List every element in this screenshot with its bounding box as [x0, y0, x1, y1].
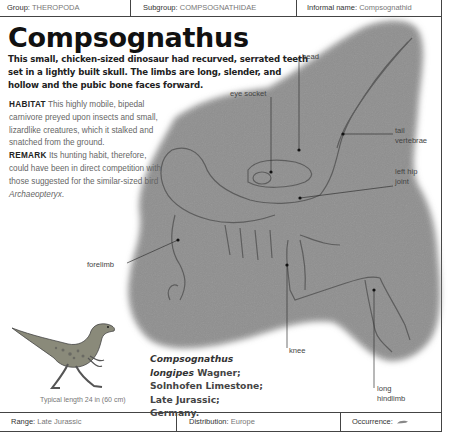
remark-italic-text: Archaeopteryx	[9, 190, 62, 199]
distribution-cell: Distribution: Europe	[177, 413, 341, 431]
group-value: THEROPODA	[32, 3, 80, 12]
range-value: Late Jurassic	[37, 417, 81, 426]
illustration-caption: Typical length 24 in (60 cm)	[40, 396, 126, 403]
label-eye-socket: eye socket	[230, 89, 266, 99]
informal-name-label: Informal name:	[307, 3, 357, 12]
range-label: Range:	[11, 417, 35, 426]
distribution-label: Distribution:	[189, 417, 229, 426]
subgroup-value: COMPSOGNATHIDAE	[180, 3, 257, 12]
group-label: Group:	[7, 3, 30, 12]
shell-fossil-icon	[397, 420, 408, 424]
label-forelimb: forelimb	[87, 260, 114, 270]
page-title: Compsognathus	[8, 22, 249, 53]
subgroup-label: Subgroup:	[143, 3, 178, 12]
label-long-hindlimb-1: long	[377, 384, 391, 394]
right-frame-rule	[441, 17, 442, 412]
specimen-formation: Solnhofen Limestone;	[150, 380, 263, 391]
range-cell: Range: Late Jurassic	[0, 413, 177, 431]
habitat-label: HABITAT	[9, 100, 46, 109]
dinosaur-illustration	[8, 318, 123, 390]
intro-paragraph: This small, chicken-sized dinosaur had r…	[8, 53, 313, 92]
informal-name-value: Compsognathid	[359, 3, 412, 12]
informal-name-cell: Informal name: Compsognathid	[297, 0, 441, 16]
label-tail-vertebrae-2: vertebrae	[395, 136, 427, 146]
label-tail-vertebrae-1: tail	[395, 126, 405, 136]
occurrence-label: Occurrence:	[352, 417, 393, 426]
remark-label: REMARK	[9, 151, 47, 160]
body-text: HABITAT This highly mobile, bipedal carn…	[9, 99, 164, 201]
footer-bar: Range: Late Jurassic Distribution: Europ…	[0, 412, 442, 432]
label-left-hip-2: joint	[395, 177, 409, 187]
subgroup-cell: Subgroup: COMPSOGNATHIDAE	[131, 0, 297, 16]
specimen-genus: Compsognathus	[150, 353, 233, 364]
fact-page: Group: THEROPODA Subgroup: COMPSOGNATHID…	[0, 0, 462, 433]
distribution-value: Europe	[231, 417, 255, 426]
specimen-caption: Compsognathus longipes Wagner; Solnhofen…	[150, 352, 270, 420]
specimen-author: Wagner;	[194, 367, 241, 378]
group-cell: Group: THEROPODA	[0, 0, 131, 16]
occurrence-cell: Occurrence:	[341, 413, 441, 431]
label-left-hip-1: left hip	[395, 167, 417, 177]
label-long-hindlimb-2: hindlimb	[377, 394, 405, 404]
label-head: head	[302, 52, 319, 62]
specimen-species: longipes	[150, 367, 194, 378]
header-bar: Group: THEROPODA Subgroup: COMPSOGNATHID…	[0, 0, 442, 17]
remark-end: .	[62, 190, 64, 199]
label-knee: knee	[289, 346, 305, 356]
